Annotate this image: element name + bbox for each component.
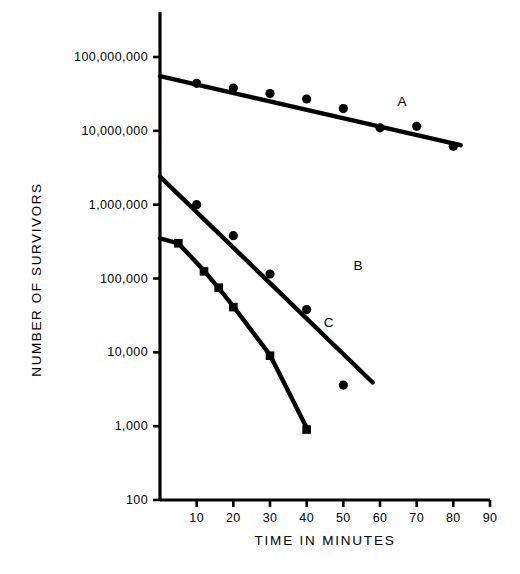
data-point [302, 94, 311, 103]
survival-curve-figure: NUMBER OF SURVIVORS TIME IN MINUTES 100,… [0, 0, 520, 574]
x-tick-label: 40 [299, 511, 314, 525]
series-label-a: A [397, 94, 406, 109]
y-tick-label: 1,000,000 [40, 198, 148, 212]
data-point [229, 303, 238, 312]
x-tick-label: 30 [263, 511, 278, 525]
x-tick-label: 80 [446, 511, 461, 525]
series-label-b: B [353, 258, 362, 273]
data-point [412, 122, 421, 131]
data-point [302, 305, 311, 314]
x-tick-label: 10 [189, 511, 204, 525]
axes-group [160, 12, 490, 500]
data-point [214, 283, 223, 292]
data-point [200, 267, 209, 276]
data-point [339, 104, 348, 113]
y-tick-label: 100,000 [40, 272, 148, 286]
y-tick-label: 1,000 [40, 419, 148, 433]
y-tick-label: 100,000,000 [40, 50, 148, 64]
y-tick-label: 100 [40, 493, 148, 507]
data-point [339, 380, 348, 389]
data-point [266, 351, 275, 360]
data-point [192, 200, 201, 209]
x-tick-label: 70 [409, 511, 424, 525]
data-point [174, 239, 183, 248]
data-point [449, 142, 458, 151]
x-tick-label: 20 [226, 511, 241, 525]
y-tick-label: 10,000,000 [40, 124, 148, 138]
data-point [192, 79, 201, 88]
y-tick-label: 10,000 [40, 345, 148, 359]
data-point [265, 269, 274, 278]
series-c-fit-line [160, 238, 307, 427]
series-a-fit-line [160, 76, 461, 145]
x-tick-label: 90 [483, 511, 498, 525]
data-point [302, 425, 311, 434]
data-point [375, 123, 384, 132]
data-point [229, 231, 238, 240]
x-tick-label: 50 [336, 511, 351, 525]
x-tick-label: 60 [373, 511, 388, 525]
series-label-c: C [324, 314, 334, 329]
series-data-points [174, 79, 458, 434]
data-point [265, 89, 274, 98]
plot-canvas [0, 0, 520, 574]
data-point [229, 83, 238, 92]
